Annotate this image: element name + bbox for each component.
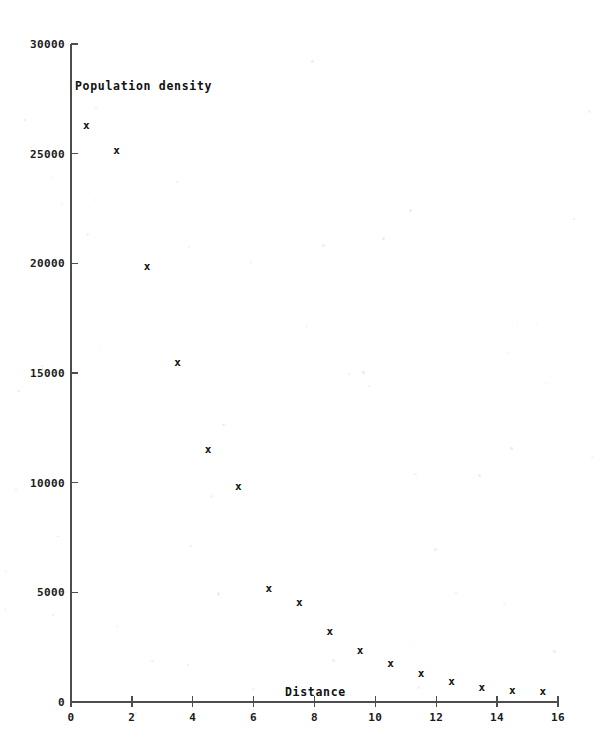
scan-speck: [4, 570, 7, 573]
y-axis-title: Population density: [75, 81, 212, 93]
scan-speck: [330, 168, 332, 170]
x-tick-label: 16: [551, 712, 565, 723]
scan-speck: [503, 602, 506, 605]
y-tick-label: 0: [58, 697, 65, 708]
data-point-marker: x: [448, 676, 455, 687]
data-point-marker: x: [509, 684, 516, 695]
x-tick-label: 0: [67, 712, 74, 723]
data-point-marker: x: [357, 645, 364, 656]
scan-speck: [246, 481, 247, 482]
x-tick-label: 14: [490, 712, 504, 723]
x-tick-label: 10: [368, 712, 382, 723]
scan-speck: [382, 237, 385, 240]
y-tick-label: 10000: [30, 477, 65, 488]
scan-speck: [362, 371, 365, 374]
scan-speck: [455, 591, 458, 594]
scan-speck: [17, 390, 19, 392]
scan-speck: [573, 218, 575, 220]
scan-speck: [217, 592, 220, 595]
x-axis-title: Distance: [285, 687, 346, 699]
y-tick-label: 5000: [37, 587, 65, 598]
scan-speck: [95, 107, 97, 109]
y-tick-label: 15000: [30, 368, 65, 379]
scan-speck: [176, 181, 178, 183]
scan-speck: [545, 382, 547, 384]
data-point-marker: x: [539, 686, 546, 697]
scan-speck: [52, 614, 54, 616]
x-tick-label: 12: [429, 712, 443, 723]
x-tick-label: 8: [311, 712, 318, 723]
y-tick-label: 25000: [30, 148, 65, 159]
data-point-marker: x: [83, 120, 90, 131]
scan-speck: [417, 686, 420, 689]
y-tick-label: 20000: [30, 258, 65, 269]
scan-speck: [86, 233, 89, 236]
scan-speck: [252, 688, 255, 691]
scan-speck: [24, 119, 26, 121]
scan-speck: [517, 321, 518, 322]
scan-speck: [94, 199, 96, 201]
data-point-marker: x: [235, 480, 242, 491]
data-point-marker: x: [266, 582, 273, 593]
scan-speck: [41, 365, 43, 367]
scan-speck: [332, 659, 335, 662]
y-tick-label: 30000: [30, 39, 65, 50]
scan-speck: [553, 650, 556, 653]
scan-speck: [70, 732, 71, 733]
scan-speck: [134, 712, 137, 715]
data-point-marker: x: [174, 357, 181, 368]
scan-speck: [434, 548, 437, 551]
scan-speck: [478, 474, 481, 477]
scan-speck: [414, 473, 416, 475]
scan-speck: [239, 333, 240, 334]
data-point-marker: x: [296, 597, 303, 608]
x-tick-label: 4: [189, 712, 196, 723]
data-point-marker: x: [418, 668, 425, 679]
scan-speck: [536, 322, 538, 324]
data-point-marker: x: [113, 145, 120, 156]
scan-speck: [187, 664, 189, 666]
scan-speck: [222, 424, 224, 426]
scan-speck: [189, 545, 191, 547]
data-point-marker: x: [479, 681, 486, 692]
scan-speck: [494, 729, 495, 730]
data-point-marker: x: [205, 443, 212, 454]
scan-speck: [106, 543, 108, 545]
data-point-marker: x: [387, 657, 394, 668]
scan-speck: [249, 261, 252, 264]
data-point-marker: x: [144, 260, 151, 271]
x-tick-label: 6: [250, 712, 257, 723]
scan-speck: [306, 326, 307, 327]
data-point-marker: x: [326, 625, 333, 636]
scan-speck: [510, 447, 512, 449]
scan-speck: [118, 443, 119, 444]
scan-speck: [151, 660, 154, 663]
